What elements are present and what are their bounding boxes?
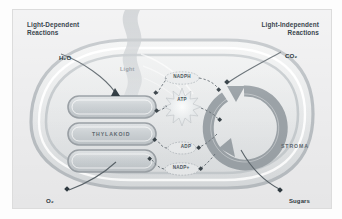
label-stroma: STROMA (281, 143, 309, 149)
label-light: Light (120, 66, 135, 72)
label-nadp-plus: NADP+ (165, 165, 197, 170)
label-adp: ADP (173, 144, 199, 149)
thylakoid-disc-3 (68, 150, 156, 172)
label-water: H₂O (59, 54, 71, 61)
label-atp: ATP (169, 97, 195, 102)
label-thylakoid: THYLAKOID (92, 131, 130, 137)
label-carbon-dioxide: CO₂ (285, 52, 297, 59)
thylakoid-disc-1 (68, 96, 156, 118)
heading-light-dependent: Light-Dependent Reactions (27, 21, 79, 36)
photosynthesis-diagram-image: Light-Dependent Reactions Light-Independ… (0, 0, 342, 219)
label-oxygen: O₂ (46, 197, 54, 204)
diagram-frame: Light-Dependent Reactions Light-Independ… (12, 9, 332, 209)
label-sugars: Sugars (289, 198, 310, 205)
heading-light-independent: Light-Independent Reactions (262, 21, 319, 36)
label-nadph: NADPH (167, 74, 197, 79)
chloroplast-illustration (13, 10, 331, 208)
